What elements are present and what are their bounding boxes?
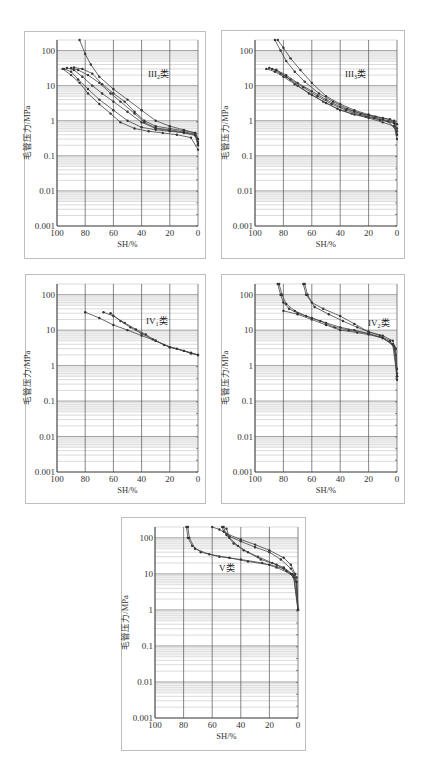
tail-point <box>395 133 396 134</box>
tail-point <box>196 144 197 145</box>
data-point <box>295 581 297 583</box>
y-tick-label: 1 <box>51 361 56 371</box>
decade-band <box>255 121 397 132</box>
y-tick-label: 1 <box>249 361 254 371</box>
y-tick-label: 0.1 <box>242 151 253 161</box>
data-point <box>353 113 355 115</box>
data-point <box>294 70 296 72</box>
y-axis-label: 毛管压力/MPa <box>120 595 130 650</box>
decade-band <box>255 437 397 448</box>
decade-band <box>155 538 298 549</box>
data-point <box>81 68 83 70</box>
data-point <box>126 329 128 331</box>
data-point <box>304 80 306 82</box>
data-point <box>325 102 327 104</box>
data-point <box>294 310 296 312</box>
tail-point <box>296 610 297 611</box>
y-tick-label: 100 <box>42 46 56 56</box>
data-point <box>282 47 284 49</box>
data-point <box>109 312 111 314</box>
y-tick-label: 0.1 <box>44 396 55 406</box>
data-point <box>254 543 256 545</box>
data-point <box>311 82 313 84</box>
data-point <box>87 92 89 94</box>
data-point <box>367 331 369 333</box>
data-point <box>322 308 324 310</box>
tail-point <box>196 366 197 367</box>
y-tick-label: 100 <box>240 46 254 56</box>
decade-band <box>155 610 298 621</box>
tail-point <box>395 202 396 203</box>
data-point <box>288 308 290 310</box>
x-tick-label: 80 <box>179 720 189 730</box>
data-point <box>282 301 284 303</box>
data-point <box>304 283 306 285</box>
data-point <box>211 526 213 528</box>
data-point <box>290 563 292 565</box>
data-point <box>119 320 121 322</box>
data-point <box>70 70 72 72</box>
y-tick-label: 0.01 <box>237 186 253 196</box>
tail-point <box>395 156 396 157</box>
data-point <box>155 120 157 122</box>
data-point <box>311 94 313 96</box>
data-point <box>78 39 80 41</box>
data-point <box>187 526 189 528</box>
decade-band <box>57 86 198 97</box>
data-point <box>240 540 242 542</box>
y-tick-label: 0.01 <box>137 677 153 687</box>
x-tick-label: 0 <box>395 474 400 484</box>
data-point <box>282 310 284 312</box>
data-point <box>176 134 178 136</box>
x-axis-label: SH/% <box>216 731 236 741</box>
tail-point <box>395 179 396 180</box>
data-point <box>162 132 164 134</box>
data-point <box>70 74 72 76</box>
x-axis-label: SH/% <box>316 239 336 249</box>
y-tick-label: 100 <box>240 290 254 300</box>
data-point <box>237 545 239 547</box>
data-point <box>66 67 68 69</box>
data-point <box>367 117 369 119</box>
data-point <box>260 558 262 560</box>
x-tick-label: 80 <box>279 228 289 238</box>
tail-point <box>395 191 396 192</box>
data-point <box>318 92 320 94</box>
class-label: III2类 <box>148 68 169 80</box>
data-point <box>222 530 224 532</box>
data-point <box>194 132 196 134</box>
tail-point <box>395 471 396 472</box>
x-tick-label: 0 <box>196 228 201 238</box>
data-point <box>147 130 149 132</box>
decade-band <box>255 51 397 62</box>
data-point <box>98 103 100 105</box>
y-tick-label: 1 <box>249 116 254 126</box>
tail-point <box>395 225 396 226</box>
data-point <box>140 126 142 128</box>
data-point <box>188 537 190 539</box>
data-point <box>140 109 142 111</box>
x-tick-label: 60 <box>307 228 317 238</box>
data-point <box>283 557 285 559</box>
data-point <box>281 293 283 295</box>
data-point <box>254 546 256 548</box>
tail-point <box>395 214 396 215</box>
x-tick-label: 80 <box>81 474 91 484</box>
data-point <box>101 92 103 94</box>
tail-point <box>395 389 396 390</box>
data-point <box>123 100 125 102</box>
class-label: IV2类 <box>368 317 390 329</box>
data-point <box>325 95 327 97</box>
data-point <box>382 337 384 339</box>
tail-point <box>296 717 297 718</box>
tail-point <box>196 156 197 157</box>
tail-point <box>196 448 197 449</box>
data-point <box>190 136 192 138</box>
tail-point <box>395 121 396 122</box>
data-point <box>129 326 131 328</box>
tail-point <box>196 133 197 134</box>
tail-point <box>395 448 396 449</box>
data-point <box>328 313 330 315</box>
data-point <box>311 318 313 320</box>
data-point <box>356 326 358 328</box>
